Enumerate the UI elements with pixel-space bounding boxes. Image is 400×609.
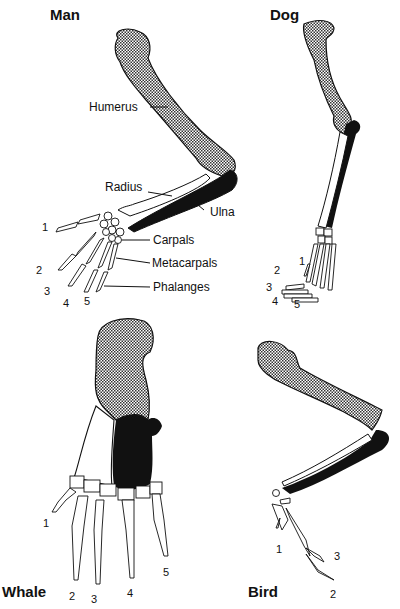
- label-phalanges: Phalanges: [153, 280, 210, 294]
- man-digits: [56, 214, 118, 292]
- label-ulna: Ulna: [210, 205, 235, 219]
- dog-digits: [282, 244, 336, 302]
- bird-digit-1: 1: [276, 543, 282, 555]
- whale-digit-1: 1: [43, 517, 49, 529]
- homologous-limbs-figure: [0, 0, 400, 609]
- whale-digit-2: 2: [69, 590, 75, 602]
- bird-digit-2: 2: [330, 588, 336, 600]
- dog-digit-4: 4: [272, 295, 278, 307]
- whale-title: Whale: [2, 583, 46, 600]
- bird-digit-3: 3: [334, 550, 340, 562]
- bird-ulna-bone: [282, 430, 389, 494]
- bird-humerus-bone: [258, 341, 382, 430]
- dog-digit-3: 3: [266, 281, 272, 293]
- dog-digit-5: 5: [294, 298, 300, 310]
- whale-ulna-bone: [113, 415, 162, 490]
- dog-digit-1: 1: [299, 255, 305, 267]
- whale-digits: [52, 488, 168, 584]
- dog-humerus-bone: [303, 21, 351, 134]
- man-digit-1: 1: [42, 221, 48, 233]
- whale-digit-5: 5: [163, 566, 169, 578]
- bird-title: Bird: [248, 583, 278, 600]
- man-title: Man: [50, 6, 80, 23]
- label-radius: Radius: [105, 180, 142, 194]
- man-digit-4: 4: [63, 297, 69, 309]
- whale-digit-3: 3: [91, 593, 97, 605]
- man-digit-3: 3: [44, 285, 50, 297]
- whale-humerus-bone: [95, 319, 153, 420]
- man-digit-2: 2: [36, 264, 42, 276]
- whale-limb: [52, 319, 168, 584]
- label-humerus: Humerus: [89, 100, 138, 114]
- dog-digit-2: 2: [274, 264, 280, 276]
- whale-digit-4: 4: [127, 587, 133, 599]
- dog-limb: [282, 21, 360, 302]
- dog-title: Dog: [270, 6, 299, 23]
- bird-wrist-hand: [272, 490, 334, 581]
- whale-radius-bone: [74, 406, 114, 486]
- man-digit-5: 5: [84, 295, 90, 307]
- label-metacarpals: Metacarpals: [152, 256, 217, 270]
- label-carpals: Carpals: [153, 233, 194, 247]
- man-limb: [56, 29, 237, 292]
- dog-carpals: [316, 228, 332, 244]
